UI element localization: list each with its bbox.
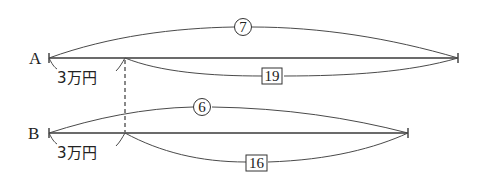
row-a-label: A (29, 49, 42, 68)
segment-a-total-arc-right (252, 27, 458, 58)
segment-a-right-part: 19 (262, 68, 282, 84)
segment-b-right-arc-right (268, 133, 408, 162)
segment-b-left-part-label: 3万円 (57, 144, 97, 162)
row-b-label: B (28, 124, 39, 143)
segment-a-left-part-label: 3万円 (57, 69, 97, 87)
segment-b-left-arc-start (49, 133, 57, 144)
row-b: B 6 3万円 16 (28, 99, 408, 172)
segment-b-total-arc-right (212, 107, 408, 133)
segment-b-total-ratio-value: 6 (198, 99, 206, 115)
segment-a-total-ratio: 7 (235, 19, 252, 36)
segment-b-left-arc-end (116, 133, 125, 146)
segment-a-left-arc-end (116, 58, 125, 71)
segment-b-total-arc-left (49, 107, 193, 133)
segment-a-right-part-value: 19 (265, 68, 280, 84)
segment-b-total-ratio: 6 (194, 99, 211, 116)
segment-b-right-arc-left (125, 133, 246, 162)
segment-b-right-part: 16 (246, 155, 267, 171)
segment-b-right-part-value: 16 (249, 155, 265, 171)
segment-a-total-arc-left (49, 27, 234, 58)
ratio-diagram: A 7 3万円 19 B (0, 0, 486, 179)
segment-a-right-arc-left (125, 58, 262, 76)
segment-a-left-arc-start (49, 58, 57, 69)
segment-a-total-ratio-value: 7 (239, 19, 247, 35)
row-a: A 7 3万円 19 (29, 19, 458, 88)
segment-a-right-arc-right (284, 58, 458, 76)
